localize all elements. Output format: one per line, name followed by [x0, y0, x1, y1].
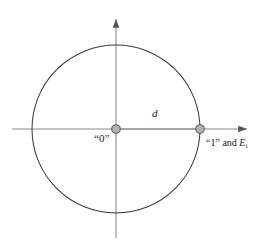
- origin-label: “0”: [94, 133, 109, 144]
- unit-point-label: “1” and Ei: [206, 138, 247, 148]
- radius-label-d: d: [152, 108, 158, 119]
- diagram-canvas: [0, 0, 263, 242]
- origin-node-marker: [112, 125, 121, 134]
- unit-point-label-symbol: E: [239, 137, 245, 148]
- unit-point-node-marker: [196, 125, 205, 134]
- unit-point-label-subscript: i: [246, 142, 248, 149]
- circle-diagram-figure: “0” d “1” and Ei: [0, 0, 263, 242]
- unit-point-label-prefix: “1” and: [206, 137, 239, 148]
